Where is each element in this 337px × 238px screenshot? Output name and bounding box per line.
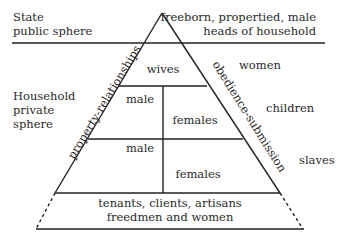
- cell-wives: wives: [147, 62, 180, 76]
- cell-male-lower: male: [126, 141, 154, 155]
- cell-base-line1: tenants, clients, artisans: [98, 196, 242, 210]
- pyramid-diagram: State public sphere Household private sp…: [0, 0, 337, 238]
- label-state: State: [13, 10, 44, 24]
- label-freeborn: freeborn, propertied, male: [161, 10, 317, 24]
- cell-base-line2: freedmen and women: [107, 210, 234, 224]
- label-sphere: sphere: [13, 117, 53, 131]
- label-slaves: slaves: [299, 153, 335, 167]
- pyramid-left-dashed-extension: [36, 193, 55, 229]
- label-women: women: [239, 58, 281, 72]
- label-obedience-submission: obedience-submission: [209, 58, 289, 175]
- label-heads-of-household: heads of household: [203, 24, 316, 38]
- cell-females-lower: females: [175, 167, 220, 181]
- pyramid-right-dashed-extension: [280, 193, 303, 229]
- label-children: children: [266, 101, 315, 115]
- label-public-sphere: public sphere: [13, 24, 93, 38]
- label-private: private: [13, 103, 55, 117]
- cell-male-upper: male: [126, 92, 154, 106]
- pyramid-right-side: [162, 13, 280, 193]
- label-household: Household: [13, 89, 76, 103]
- cell-females-upper: females: [172, 113, 217, 127]
